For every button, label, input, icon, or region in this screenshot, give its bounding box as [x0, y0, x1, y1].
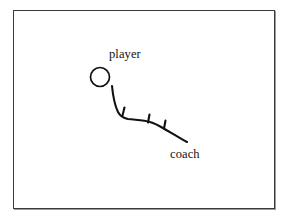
barb-2-icon	[148, 115, 150, 123]
barb-1-icon	[123, 108, 125, 116]
barb-3-icon	[164, 121, 166, 129]
label-player: player	[109, 48, 141, 61]
player-circle	[91, 68, 110, 87]
label-coach: coach	[170, 148, 200, 161]
sketch-drawing	[0, 0, 287, 224]
figure-canvas: player coach	[0, 0, 287, 224]
